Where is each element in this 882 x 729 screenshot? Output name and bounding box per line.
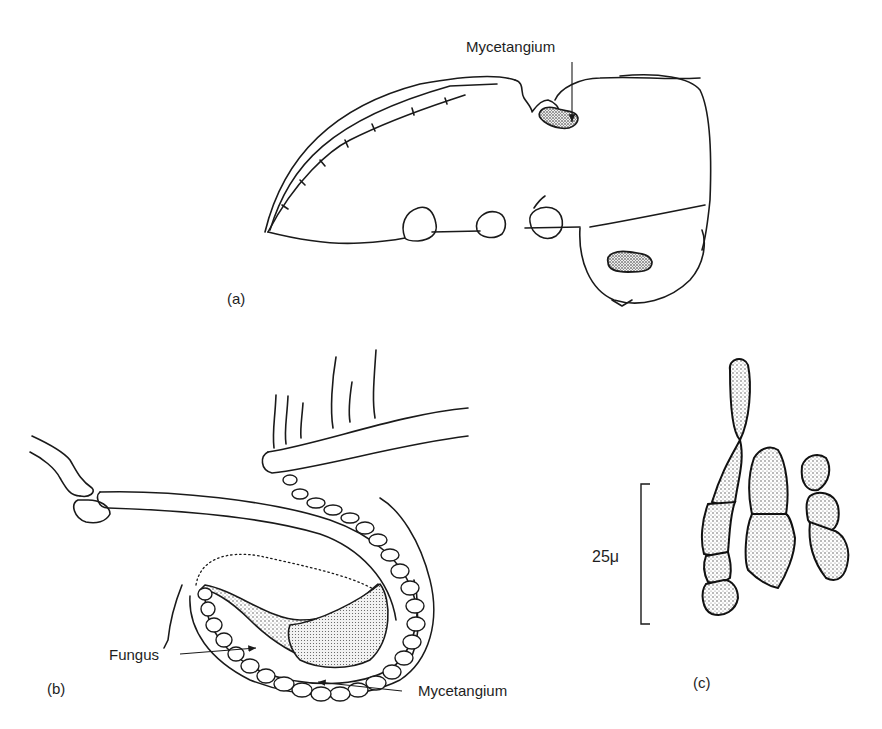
panel-a-beetle [265, 75, 711, 306]
panel-b-section [30, 350, 468, 695]
panel-a-mycetangium-label: Mycetangium [466, 38, 555, 55]
panel-b-cell-chain [198, 475, 425, 701]
figure-canvas: Mycetangium (a) Fungus Mycetangium (b) 2… [0, 0, 882, 729]
panel-c-label: (c) [693, 674, 711, 691]
panel-c-cells [702, 359, 848, 615]
panel-c-scale-label: 25μ [592, 548, 619, 565]
panel-c-scale-bar [641, 484, 650, 624]
panel-b-label: (b) [47, 680, 65, 697]
panel-b-mycetangium-label: Mycetangium [418, 682, 507, 699]
panel-a-label: (a) [227, 290, 245, 307]
panel-b-fungus-label: Fungus [109, 646, 159, 663]
